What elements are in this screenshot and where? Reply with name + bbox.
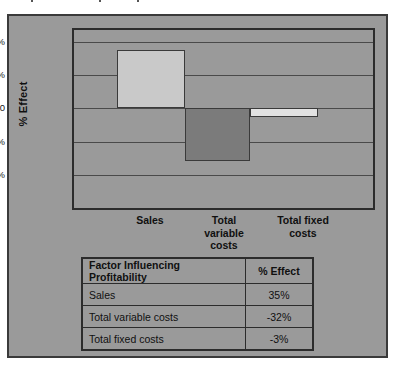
clipped-text-sliver [0,0,398,10]
text-descender-mark [137,0,139,2]
table-header-factor: Factor Influencing Profitability [82,258,246,284]
figure-panel: % Effect 40% 20% 0 -20% -40% Sales Total [7,14,388,358]
table-header-row: Factor Influencing Profitability % Effec… [82,258,313,284]
bar-total-variable-costs[interactable] [185,108,250,161]
table-row: Total fixed costs -3% [82,328,313,351]
y-axis-title: % Effect [17,54,29,154]
bar-chart: % Effect 40% 20% 0 -20% -40% Sales Total [9,16,390,216]
x-label-line: costs [252,227,354,240]
table-cell-effect: -32% [246,306,314,328]
plot-area [72,28,375,210]
bar-sales[interactable] [117,50,185,108]
gridline-neg40 [74,175,373,176]
y-tick-label-0: 0 [0,102,5,113]
table-cell-factor: Total fixed costs [82,328,246,351]
y-tick-label-neg20: -20% [0,136,5,147]
table-cell-factor: Sales [82,284,246,306]
y-tick-label-20: 20% [0,69,5,80]
text-descender-mark [99,0,101,2]
y-tick-label-neg40: -40% [0,169,5,180]
text-descender-mark [31,0,33,2]
table-cell-factor: Total variable costs [82,306,246,328]
y-tick-label-40: 40% [0,36,5,47]
bar-total-fixed-costs[interactable] [250,108,318,117]
table-header-effect: % Effect [246,258,314,284]
table-row: Sales 35% [82,284,313,306]
x-label-line: costs [178,239,270,252]
x-label-total-fixed-costs: Total fixed costs [252,214,354,239]
factor-effect-table: Factor Influencing Profitability % Effec… [81,257,314,351]
x-label-line: Total fixed [252,214,354,227]
table-cell-effect: -3% [246,328,314,351]
gridline-40 [74,42,373,43]
table-cell-effect: 35% [246,284,314,306]
table-row: Total variable costs -32% [82,306,313,328]
